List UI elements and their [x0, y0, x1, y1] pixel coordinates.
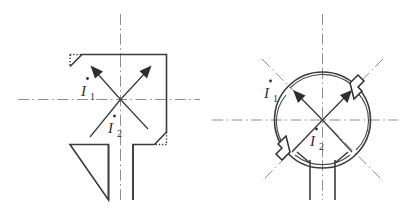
- phasor-dot-i2-circle: [315, 128, 318, 131]
- current-label-i1-circle: I 1: [263, 80, 278, 104]
- vector-i2-shaft-circle: [323, 96, 347, 120]
- label-i2-symbol: I: [107, 120, 114, 136]
- technical-diagram-svg: I 1 I 2: [0, 0, 413, 212]
- current-label-i2: I 2: [107, 115, 122, 139]
- right-panel-circular-cross-section: I 1 I 2: [212, 14, 398, 200]
- vector-i1-tail-circle: [323, 120, 353, 152]
- vector-i2-shaft: [121, 72, 147, 100]
- label-i1-symbol: I: [80, 83, 87, 99]
- figure-root: I 1 I 2: [0, 0, 413, 212]
- label-i2-subscript: 2: [117, 128, 122, 139]
- label-i2-symbol-circle: I: [309, 133, 316, 149]
- label-i1-symbol-circle: I: [263, 85, 270, 101]
- vector-i1-shaft: [96, 72, 121, 100]
- vector-i2-tail-circle: [292, 120, 323, 152]
- phasor-dot-i1: [86, 77, 89, 80]
- current-label-i1: I 1: [80, 77, 95, 102]
- left-panel-square-cross-section: I 1 I 2: [18, 14, 200, 200]
- phasor-dot-i1-circle: [269, 80, 272, 83]
- vector-i1-arrowhead: [91, 66, 104, 79]
- vector-i1-shaft-circle: [299, 96, 323, 120]
- label-i1-subscript: 1: [90, 91, 95, 102]
- vector-i1-tail: [121, 100, 149, 130]
- notch-upper-right: [350, 75, 364, 99]
- phasor-dot-i2: [113, 115, 116, 118]
- vector-i2-tail: [90, 100, 121, 138]
- label-i1-subscript-circle: 1: [273, 93, 278, 104]
- label-i2-subscript-circle: 2: [319, 141, 324, 152]
